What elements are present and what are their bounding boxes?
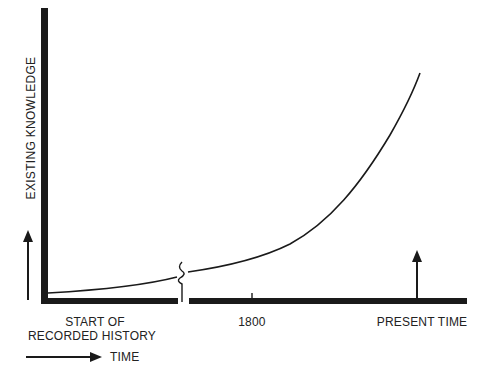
knowledge-curve-modern — [188, 73, 420, 272]
x-axis-segment-left — [41, 298, 178, 304]
x-label-1800: 1800 — [238, 315, 266, 329]
knowledge-curve-early — [48, 277, 177, 293]
y-axis — [41, 8, 48, 304]
time-arrow-icon — [90, 352, 102, 362]
x-axis-segment-right — [189, 298, 467, 304]
x-axis-label: TIME — [110, 350, 139, 364]
present-time-arrow-icon — [412, 250, 422, 262]
x-label-present: PRESENT TIME — [377, 315, 468, 329]
axis-break-icon — [178, 262, 184, 302]
x-label-start-line1: START OF — [65, 315, 125, 329]
x-label-start-line2: RECORDED HISTORY — [28, 329, 156, 343]
y-axis-arrow-icon — [23, 230, 33, 242]
y-axis-label: EXISTING KNOWLEDGE — [24, 57, 38, 200]
